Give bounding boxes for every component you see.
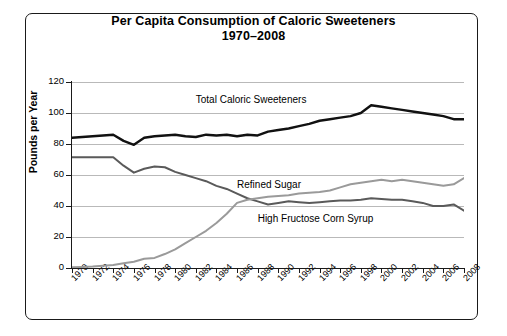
y-tick-label: 40 (30, 199, 64, 210)
chart-title-line2: 1970–2008 (0, 29, 507, 44)
y-tick-mark (66, 113, 71, 114)
y-tick-mark (66, 206, 71, 207)
y-tick-label: 20 (30, 230, 64, 241)
y-tick-label: 80 (30, 137, 64, 148)
series-lines (72, 82, 464, 268)
plot-area (72, 82, 464, 268)
y-tick-label: 60 (30, 168, 64, 179)
series-annotation: Refined Sugar (237, 179, 301, 190)
y-tick-label: 100 (30, 106, 64, 117)
chart-title: Per Capita Consumption of Caloric Sweete… (0, 14, 507, 44)
y-tick-mark (66, 237, 71, 238)
y-tick-label: 120 (30, 75, 64, 86)
series-annotation: Total Caloric Sweeteners (196, 94, 307, 105)
y-tick-mark (66, 175, 71, 176)
y-tick-label: 0 (30, 261, 64, 272)
series-annotation: High Fructose Corn Syrup (258, 213, 374, 224)
series-line (72, 105, 464, 145)
y-tick-mark (66, 82, 71, 83)
chart-title-line1: Per Capita Consumption of Caloric Sweete… (111, 14, 395, 28)
y-tick-mark (66, 268, 71, 269)
y-tick-mark (66, 144, 71, 145)
y-axis-labels: 020406080100120 (24, 0, 64, 336)
